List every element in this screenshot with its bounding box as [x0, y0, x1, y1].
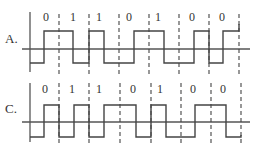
bit-labels-c: 0110100: [42, 82, 226, 96]
bit-label: 0: [190, 82, 196, 96]
option-label-a: A.: [5, 31, 18, 46]
bit-boundaries-a: [59, 14, 239, 75]
bit-label: 0: [219, 10, 225, 24]
bit-label: 0: [130, 82, 136, 96]
option-label-c: C.: [5, 101, 17, 116]
bit-label: 0: [43, 10, 49, 24]
bit-label: 0: [220, 82, 226, 96]
diagram-c: C. 0110100: [5, 82, 250, 143]
bit-label: 1: [157, 82, 163, 96]
diagram-a: A. 0110100: [5, 10, 250, 75]
bit-boundaries-c: [59, 83, 241, 143]
bit-label: 0: [126, 10, 132, 24]
waveform-c: [30, 105, 241, 137]
bit-label: 1: [155, 10, 161, 24]
encoding-diagram: A. 0110100 C. 0110100: [0, 0, 254, 151]
bit-label: 1: [96, 82, 102, 96]
bit-label: 1: [69, 82, 75, 96]
waveform-a: [30, 24, 239, 63]
bit-label: 0: [189, 10, 195, 24]
bit-label: 0: [42, 82, 48, 96]
bit-label: 1: [70, 10, 76, 24]
bit-label: 1: [96, 10, 102, 24]
bit-labels-a: 0110100: [43, 10, 225, 24]
